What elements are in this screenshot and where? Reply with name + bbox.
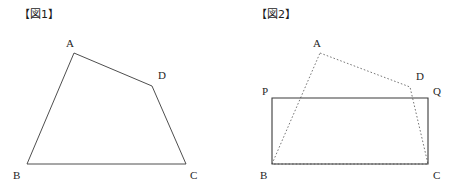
figure-2-vertex-label-p: P [262, 85, 268, 97]
figure-2-panel: 【図2】 A D P Q C B [227, 0, 454, 187]
figure-1-vertex-label-b: B [13, 169, 20, 181]
figure-2-vertex-label-c: C [433, 169, 440, 181]
worksheet-canvas: 【図1】 A D C B 【図2】 A D P Q C B [0, 0, 454, 187]
figure-2-drawing: A D P Q C B [227, 0, 454, 187]
dotted-quadrilateral-abcd-outline [272, 53, 428, 164]
figure-2-vertex-label-b: B [260, 169, 267, 181]
figure-1-vertex-label-d: D [158, 69, 166, 81]
rectangle-pqcb-outline [272, 98, 428, 164]
figure-1-vertex-label-c: C [190, 169, 197, 181]
figure-2-vertex-label-d: D [416, 70, 424, 82]
figure-1-drawing: A D C B [0, 0, 227, 187]
figure-2-vertex-label-q: Q [433, 85, 441, 97]
figure-1-vertex-label-a: A [66, 37, 74, 49]
figure-2-vertex-label-a: A [313, 37, 321, 49]
figure-1-panel: 【図1】 A D C B [0, 0, 227, 187]
